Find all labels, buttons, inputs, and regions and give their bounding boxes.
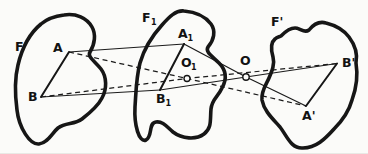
label-region-f1: F [142,10,151,25]
region-fprime-outline [262,22,357,148]
label-region-f1-subscript: 1 [151,18,157,27]
segment-a-b [41,52,69,97]
center-o1-marker [184,76,190,82]
center-o-marker [243,74,249,80]
label-center-o1-subscript: 1 [191,63,197,72]
label-point-aprime: A' [302,108,316,123]
region-f-outline [15,15,105,144]
label-center-o: O [240,53,251,68]
label-point-bprime: B' [342,55,355,70]
label-region-fprime: F' [271,14,283,29]
label-region-f: F [15,39,24,54]
segment-a-a1 [69,44,184,52]
geometry-diagram: F F 1 F' A B A 1 B 1 O 1 O A' B' [0,0,368,153]
label-point-b1-subscript: 1 [166,99,172,108]
label-point-a: A [53,40,63,55]
segment-b-b1 [41,90,160,97]
label-point-a1-subscript: 1 [188,34,194,43]
segment-aprime-bprime [306,64,337,107]
label-point-b: B [28,89,38,104]
label-point-a1: A [178,26,188,41]
figure-canvas: F F 1 F' A B A 1 B 1 O 1 O A' B' [0,0,368,154]
label-point-b1: B [156,91,166,106]
